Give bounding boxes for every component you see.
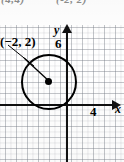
- circle-center-point: [45, 78, 52, 85]
- graph-figure: (4,4) (-2, 2) y x 6 4 (−2, 2): [0, 0, 124, 162]
- x-axis-label: x: [115, 103, 121, 115]
- y-axis-label: y: [54, 24, 59, 36]
- y-axis-tick-label: 6: [55, 37, 62, 50]
- clipped-text-left: (4,4): [1, 0, 25, 5]
- clipped-top-text: (4,4) (-2, 2): [0, 0, 124, 7]
- clipped-text-right: (-2, 2): [56, 0, 87, 5]
- x-axis-tick-label: 4: [90, 105, 97, 118]
- center-coordinate-label: (−2, 2): [0, 35, 36, 48]
- y-axis-arrow-icon: [62, 24, 72, 33]
